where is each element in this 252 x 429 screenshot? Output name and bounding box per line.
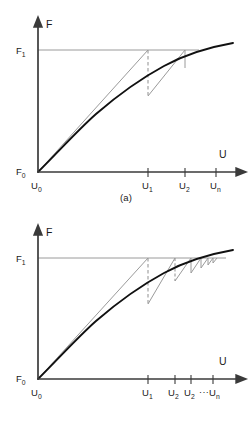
y-axis-label: F xyxy=(46,18,52,30)
response-curve xyxy=(38,43,233,172)
figure-panel-a: F U F1 F0 U0 U1 U2 Un xyxy=(0,0,252,215)
x-tick-label-u0: U0 xyxy=(31,387,42,400)
x-tick-label-u1: U1 xyxy=(142,387,153,400)
figure-stack: F U F1 F0 U0 U1 U2 Un xyxy=(0,0,252,429)
x-axis-label: U xyxy=(219,355,227,367)
x-tick-label-un: Un xyxy=(209,387,220,400)
secant-line-5 xyxy=(201,258,208,268)
x-tick-label-u1: U1 xyxy=(142,180,153,193)
x-axis-label: U xyxy=(219,148,227,160)
secant-line-1 xyxy=(38,50,148,172)
x-tick-label-u2-second: U2 xyxy=(184,387,195,400)
x-tick-label-u2: U2 xyxy=(179,180,190,193)
caption-panel-a: (a) xyxy=(0,192,252,203)
chart-panel-b: F U F1 F0 U0 U1 U2 U2 xyxy=(0,215,252,429)
response-curve xyxy=(38,250,233,379)
y-tick-label-f0: F0 xyxy=(16,373,26,386)
secant-line-7 xyxy=(213,258,217,263)
x-tick-label-ellipsis: ··· xyxy=(199,387,209,397)
y-tick-label-f1: F1 xyxy=(16,253,26,266)
x-tick-label-u0: U0 xyxy=(31,180,42,193)
y-axis-label: F xyxy=(46,226,52,238)
y-tick-label-f1: F1 xyxy=(16,45,26,58)
chart-panel-a: F U F1 F0 U0 U1 U2 Un xyxy=(0,0,252,215)
x-tick-label-un: Un xyxy=(210,180,221,193)
x-tick-label-u2-first: U2 xyxy=(168,387,179,400)
figure-panel-b: F U F1 F0 U0 U1 U2 U2 xyxy=(0,215,252,429)
y-tick-label-f0: F0 xyxy=(16,166,26,179)
secant-line-2 xyxy=(148,258,175,304)
secant-line-6 xyxy=(208,258,213,265)
